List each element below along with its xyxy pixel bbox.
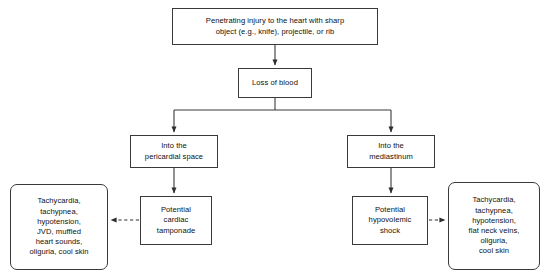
node-penetrating-injury: Penetrating injury to the heart with sha…	[172, 8, 378, 45]
node-tamponade-signs: Tachycardia, tachypnea, hypotension, JVD…	[10, 184, 108, 270]
node-tamponade-signs-label: Tachycardia, tachypnea, hypotension, JVD…	[29, 196, 88, 257]
node-potential-cardiac-tamponade: Potential cardiac tamponade	[140, 196, 212, 245]
node-into-mediastinum-label: Into the mediastinum	[369, 141, 413, 161]
node-potential-hypovolemic-shock: Potential hypovolemic shock	[352, 196, 428, 245]
node-loss-of-blood-label: Loss of blood	[252, 78, 298, 88]
node-hypovolemic-shock-signs-label: Tachycardia, tachypnea, hypotension, fla…	[468, 195, 519, 256]
node-into-pericardial-space: Into the pericardial space	[130, 135, 218, 168]
node-hypovolemic-shock-signs: Tachycardia, tachypnea, hypotension, fla…	[448, 182, 540, 270]
node-potential-cardiac-tamponade-label: Potential cardiac tamponade	[157, 205, 195, 236]
node-loss-of-blood: Loss of blood	[238, 68, 312, 98]
node-into-pericardial-space-label: Into the pericardial space	[145, 141, 203, 161]
node-into-mediastinum: Into the mediastinum	[347, 135, 435, 168]
flowchart-canvas: Penetrating injury to the heart with sha…	[0, 0, 545, 276]
node-penetrating-injury-label: Penetrating injury to the heart with sha…	[206, 16, 344, 36]
node-potential-hypovolemic-shock-label: Potential hypovolemic shock	[369, 205, 412, 236]
